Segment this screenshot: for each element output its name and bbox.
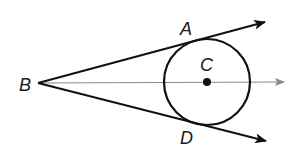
tangent-diagram: B A C D [0,0,303,160]
label-b: B [19,75,31,95]
center-point-c [203,78,211,86]
ray-bd [38,83,266,141]
ray-ba [38,22,265,83]
label-a: A [179,19,192,39]
label-c: C [200,55,214,75]
label-d: D [180,128,193,148]
ray-bc [38,82,284,83]
